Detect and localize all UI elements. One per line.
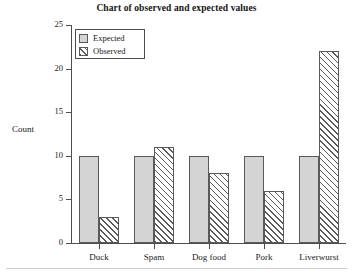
x-tick-mark <box>209 244 210 249</box>
bar-expected-dog-food <box>189 156 209 243</box>
bar-observed-spam <box>154 147 174 243</box>
x-tick-label: Liverwurst <box>299 252 339 262</box>
x-tick-label: Pork <box>255 252 272 262</box>
bar-expected-liverwurst <box>299 156 319 243</box>
y-tick-mark <box>66 243 71 244</box>
chart-title: Chart of observed and expected values <box>0 3 353 13</box>
page-edge-rule <box>6 268 347 269</box>
chart-legend: Expected Observed <box>75 29 145 59</box>
bar-observed-duck <box>99 217 119 243</box>
x-tick-label: Duck <box>89 252 109 262</box>
x-tick-mark <box>154 244 155 249</box>
y-tick-label: 0 <box>23 238 63 247</box>
x-tick-label: Spam <box>144 252 165 262</box>
y-tick-mark <box>66 156 71 157</box>
y-tick-label: 20 <box>23 64 63 73</box>
y-axis-title: Count <box>12 124 34 134</box>
y-tick-mark <box>66 199 71 200</box>
bar-expected-pork <box>244 156 264 243</box>
bar-chart-figure: Chart of observed and expected values Co… <box>0 0 353 275</box>
bar-observed-pork <box>264 191 284 243</box>
x-tick-mark <box>264 244 265 249</box>
diagonal-hatch-square-icon <box>79 47 88 56</box>
y-tick-mark <box>66 25 71 26</box>
x-tick-mark <box>319 244 320 249</box>
y-tick-mark <box>66 112 71 113</box>
x-tick-mark <box>99 244 100 249</box>
y-tick-label: 25 <box>23 20 63 29</box>
y-tick-mark <box>66 69 71 70</box>
bar-observed-liverwurst <box>319 51 339 243</box>
y-tick-label: 15 <box>23 107 63 116</box>
bar-expected-duck <box>79 156 99 243</box>
y-tick-label: 5 <box>23 194 63 203</box>
y-tick-label: 10 <box>23 151 63 160</box>
y-axis-line <box>71 25 72 244</box>
solid-gray-square-icon <box>79 34 88 43</box>
bar-observed-dog-food <box>209 173 229 243</box>
legend-item-observed: Observed <box>79 45 141 57</box>
legend-label-observed: Observed <box>93 47 126 56</box>
bar-expected-spam <box>134 156 154 243</box>
legend-label-expected: Expected <box>93 34 125 43</box>
legend-item-expected: Expected <box>79 32 141 44</box>
x-tick-label: Dog food <box>192 252 226 262</box>
